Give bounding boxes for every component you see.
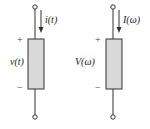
time-domain-element [28,5,44,119]
minus-sign: − [95,83,101,93]
current-arrow-icon [117,10,122,33]
current-label-freq: I(ω) [123,15,140,25]
bottom-terminal-icon [33,115,37,119]
top-terminal-icon [33,5,37,9]
element-box [28,39,44,89]
plus-sign: + [17,35,23,45]
bottom-terminal-icon [111,115,115,119]
current-arrow-icon [39,10,44,33]
element-box [106,39,122,89]
top-terminal-icon [111,5,115,9]
current-label-time: i(t) [45,15,57,25]
plus-sign: + [95,35,101,45]
frequency-domain-element [106,5,122,119]
minus-sign: − [17,83,23,93]
voltage-label-freq: V(ω) [75,57,95,67]
voltage-label-time: v(t) [10,57,24,67]
